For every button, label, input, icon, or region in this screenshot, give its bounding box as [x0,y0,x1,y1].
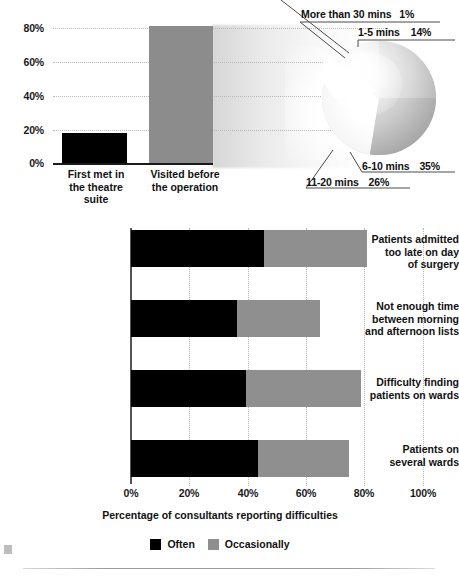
callout-value: 1% [399,8,414,20]
segment-occasionally[interactable] [258,440,349,477]
category-label-line: First met in [52,168,140,181]
xtick-0: 0% [108,487,154,499]
top-bar-chart-panel: 80% 60% 40% 20% 0% First met in the thea… [0,0,459,215]
legend-swatch-often-icon [150,539,161,550]
row-label-not-enough-time: Not enough time between morning and afte… [337,300,459,338]
row-label-line: between morning [337,313,459,326]
corner-artifact-mark [4,545,12,554]
xtick-80: 80% [341,487,387,499]
ytick-20: 20% [0,124,44,136]
legend-item-often[interactable]: Often [150,538,194,550]
category-label-line: the operation [140,181,230,194]
callout-1-5-mins: 1-5 mins 14% [358,26,431,38]
callout-label: 1-5 mins [358,26,400,38]
ytick-60: 60% [0,56,44,68]
callout-value: 26% [369,176,390,188]
row-label-patients-several-wards: Patients on several wards [337,443,459,468]
bar-visited-before-operation[interactable] [149,26,213,163]
callout-6-10-mins: 6-10 mins 35% [362,160,440,172]
callout-value: 35% [419,160,440,172]
table-row [131,370,361,407]
table-row [131,440,349,477]
segment-often[interactable] [131,440,258,477]
legend-label-occasionally: Occasionally [225,538,290,550]
legend: Often Occasionally [0,538,440,550]
bar-first-met-in-theatre-suite[interactable] [62,133,127,163]
segment-occasionally[interactable] [264,230,367,267]
segment-often[interactable] [131,230,264,267]
legend-item-occasionally[interactable]: Occasionally [208,538,290,550]
segment-often[interactable] [131,300,237,337]
callout-label: 11-20 mins [306,176,359,188]
legend-swatch-occasionally-icon [208,539,219,550]
top-chart-baseline [53,163,213,165]
table-row [131,230,367,267]
xtick-40: 40% [225,487,271,499]
figure-root: 80% 60% 40% 20% 0% First met in the thea… [0,0,459,585]
xtick-20: 20% [166,487,212,499]
callout-label: 6-10 mins [362,160,410,172]
footer-divider [23,568,435,569]
xtick-60: 60% [283,487,329,499]
row-label-line: Patients on [337,443,459,456]
x-axis-title: Percentage of consultants reporting diff… [0,509,440,521]
pie-chart-sphere [322,41,436,155]
callout-label: More than 30 mins [301,8,392,20]
category-label-line: Visited before [140,168,230,181]
ytick-40: 40% [0,90,44,102]
segment-often[interactable] [131,370,246,407]
category-label-first-met: First met in the theatre suite [52,168,140,206]
row-label-line: and afternoon lists [337,325,459,338]
gridline-80 [53,28,388,29]
row-label-line: several wards [337,456,459,469]
segment-occasionally[interactable] [237,300,320,337]
callout-more-than-30-mins: More than 30 mins 1% [301,8,414,20]
category-label-line: the theatre [52,181,140,194]
callout-11-20-mins: 11-20 mins 26% [306,176,389,188]
ytick-0: 0% [0,157,44,169]
category-label-line: suite [52,193,140,206]
segment-occasionally[interactable] [246,370,361,407]
legend-label-often: Often [167,538,194,550]
ytick-80: 80% [0,22,44,34]
table-row [131,300,320,337]
callout-value: 14% [411,26,432,38]
bottom-stacked-bar-chart-panel: Patients admitted too late on day of sur… [0,215,459,585]
row-label-line: Not enough time [337,300,459,313]
xtick-100: 100% [400,487,446,499]
category-label-visited-before: Visited before the operation [140,168,230,193]
